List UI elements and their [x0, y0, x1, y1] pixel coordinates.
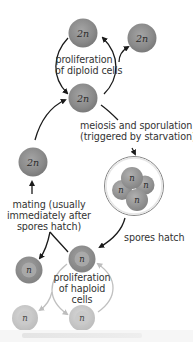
haploid-cell-top: n — [69, 246, 96, 273]
svg-text:2n: 2n — [76, 28, 89, 39]
arrow-haploid-to-mating — [50, 232, 68, 252]
arrow-spores-hatch — [100, 218, 125, 247]
label-meiosis-sporulation: meiosis and sporulation (triggered by st… — [80, 120, 192, 142]
svg-text:n: n — [129, 173, 134, 183]
arrow-meiosis-to-spores — [132, 148, 135, 154]
diploid-cell-left: 2n — [19, 148, 48, 177]
svg-text:n: n — [79, 313, 84, 323]
svg-text:n: n — [26, 265, 31, 275]
label-haploid-proliferation: proliferation of haploid cells — [52, 272, 112, 305]
diploid-cell-top: 2n — [69, 19, 98, 48]
label-line: mating (usually — [4, 199, 94, 210]
arrow-haploid-to-bottom-left — [40, 292, 52, 310]
label-line: of diploid cells — [55, 65, 113, 76]
svg-text:2n: 2n — [135, 33, 148, 44]
label-line: proliferation — [55, 54, 113, 65]
haploid-cell-left: n — [16, 257, 43, 284]
label-line: proliferation — [52, 272, 112, 283]
label-line: spores hatch) — [4, 221, 94, 232]
arrow-middle-to-meiosis — [101, 105, 118, 120]
svg-text:n: n — [143, 180, 148, 190]
label-diploid-proliferation: proliferation of diploid cells — [55, 54, 113, 76]
spore-ascus: n n n n — [105, 157, 164, 216]
svg-text:n: n — [22, 313, 27, 323]
label-line: of haploid — [52, 283, 112, 294]
svg-text:n: n — [118, 185, 123, 195]
label-spores-hatch: spores hatch — [124, 232, 185, 243]
label-line: immediately after — [4, 210, 94, 221]
faded-caption-text — [22, 333, 142, 338]
label-mating: mating (usually immediately after spores… — [4, 199, 94, 232]
label-line: meiosis and sporulation — [80, 120, 192, 131]
arrow-to-right-diploid — [119, 47, 128, 62]
svg-text:n: n — [134, 195, 139, 205]
label-line: spores hatch — [124, 232, 185, 243]
diploid-cell-right: 2n — [128, 24, 157, 53]
spore-3: n — [121, 167, 143, 189]
label-line: (triggered by starvation) — [80, 131, 192, 142]
label-line: cells — [52, 294, 112, 305]
faded-caption-strip — [0, 330, 193, 342]
svg-text:2n: 2n — [76, 93, 89, 104]
arrow-left-diploid-to-middle — [35, 100, 65, 140]
svg-text:n: n — [79, 254, 84, 264]
diploid-cell-middle: 2n — [69, 84, 98, 113]
svg-text:2n: 2n — [26, 157, 39, 168]
haploid-cell-bottom-left: n — [12, 305, 38, 331]
haploid-cell-bottom: n — [69, 305, 95, 331]
arrow-mating-split — [40, 232, 50, 258]
spore-4: n — [126, 189, 148, 211]
